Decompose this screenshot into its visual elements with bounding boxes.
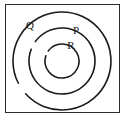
orbit-group-middle: P: [29, 24, 95, 94]
concentric-circles-diagram: Q P R: [0, 0, 127, 126]
figure-container: Q P R: [0, 0, 127, 126]
orbit-label-inner: R: [67, 39, 75, 51]
orbit-group-inner: R: [45, 39, 79, 78]
orbit-circle-middle: [29, 28, 95, 94]
orbit-label-outer: Q: [26, 19, 34, 31]
orbit-label-middle: P: [73, 24, 79, 36]
orbit-group-outer: Q: [13, 12, 111, 110]
